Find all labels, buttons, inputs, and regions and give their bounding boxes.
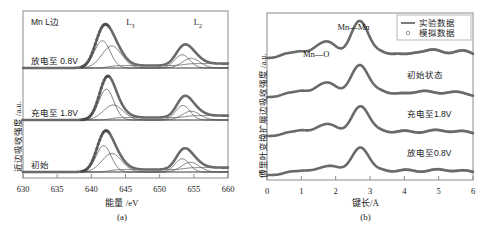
- panel-a-experimental-curve: [23, 131, 228, 172]
- panel-b-x-tick-label: 0: [265, 186, 269, 196]
- panel-a-x-tick-label: 630: [17, 184, 30, 194]
- panel-a-curve-label: 初始: [31, 160, 49, 170]
- panel-a-caption: (a): [0, 212, 244, 222]
- panel-a-x-tick-label: 650: [153, 184, 166, 194]
- panel-b-x-tick-label: 5: [437, 186, 441, 196]
- panel-b-curve-label: 放电至0.8V: [407, 148, 452, 158]
- panel-b-y-axis-title: 傅里叶变换扩展边吸收强度 /a.u.: [256, 53, 268, 178]
- panel-a-x-tick-label: 635: [51, 184, 64, 194]
- panel-b-x-axis-title: 键长/Å: [244, 196, 487, 209]
- legend-label-experimental: 实验数据: [419, 18, 455, 28]
- panel-a-x-axis-title: 能量 /eV: [0, 196, 244, 209]
- panel-b-x-tick-label: 6: [471, 186, 475, 196]
- panel-a-plot-frame: [23, 11, 228, 178]
- panel-a-curve-label: 放电至 0.8V: [31, 56, 78, 66]
- panel-b-curve-label: 充电至1.8V: [407, 109, 452, 119]
- panel-b-bond-label-mn-o: Mn—O: [303, 49, 329, 59]
- panel-a-x-tick-label: 640: [85, 184, 98, 194]
- panel-a-peak-label: L2: [194, 17, 202, 29]
- panel-a-corner-label: Mn L边: [31, 17, 59, 27]
- panel-b-bond-label-mn-mn: Mn—Mn: [337, 22, 370, 32]
- panel-a-curve-label: 充电至 1.8V: [31, 108, 78, 118]
- panel-b-x-tick-label: 4: [402, 186, 407, 196]
- panel-a-x-tick-label: 645: [119, 184, 132, 194]
- figure-root: 630635640645650655660放电至 0.8V充电至 1.8V初始M…: [0, 0, 487, 233]
- panel-a-x-tick-label: 655: [187, 184, 200, 194]
- panel-a-x-tick-label: 660: [222, 184, 235, 194]
- legend-label-simulated: 模拟数据: [419, 28, 455, 38]
- panel-a-peak-label: L3: [126, 17, 134, 29]
- panel-b-x-tick-label: 1: [299, 186, 303, 196]
- panel-b-caption: (b): [244, 212, 487, 222]
- panel-b-x-tick-label: 3: [368, 186, 372, 196]
- panel-b-curve-label: 初始状态: [407, 70, 443, 80]
- panel-b-x-tick-label: 2: [334, 186, 338, 196]
- panel-a-y-axis-title: 近边吸收强度 /a.u.: [11, 101, 23, 172]
